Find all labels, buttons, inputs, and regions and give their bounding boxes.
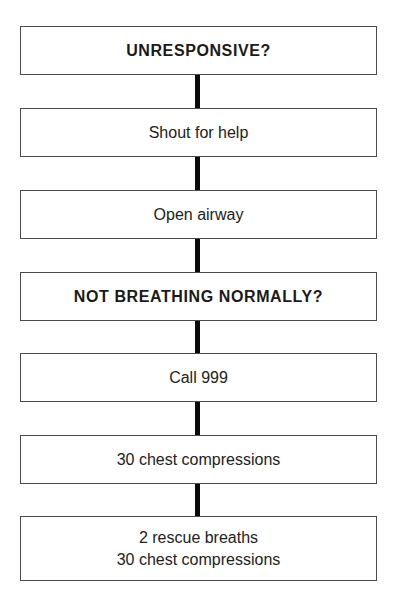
step-label: Open airway (154, 204, 244, 226)
connector-arrow (195, 402, 200, 435)
step-label: NOT BREATHING NORMALLY? (74, 286, 323, 308)
step-rescue-breaths-compressions: 2 rescue breaths 30 chest compressions (20, 516, 377, 581)
connector-arrow (195, 484, 200, 516)
step-label: 30 chest compressions (117, 449, 281, 471)
cpr-flowchart: UNRESPONSIVE? Shout for help Open airway… (0, 0, 397, 608)
step-label-line-2: 30 chest compressions (117, 549, 281, 571)
connector-arrow (195, 321, 200, 353)
step-shout-for-help: Shout for help (20, 108, 377, 157)
step-label: UNRESPONSIVE? (126, 40, 271, 62)
connector-arrow (195, 157, 200, 190)
connector-arrow (195, 75, 200, 108)
step-30-chest-compressions: 30 chest compressions (20, 435, 377, 484)
step-label-line-1: 2 rescue breaths (139, 527, 258, 549)
step-label: Call 999 (169, 367, 228, 389)
step-call-999: Call 999 (20, 353, 377, 402)
step-label: Shout for help (149, 122, 249, 144)
step-unresponsive: UNRESPONSIVE? (20, 26, 377, 75)
connector-arrow (195, 239, 200, 272)
step-open-airway: Open airway (20, 190, 377, 239)
step-not-breathing-normally: NOT BREATHING NORMALLY? (20, 272, 377, 321)
